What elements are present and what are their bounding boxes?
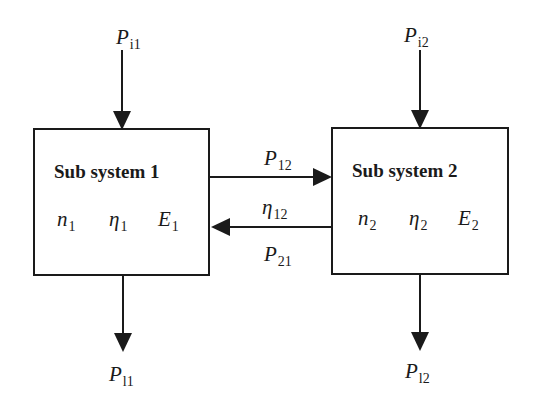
subsystem-2-title: Sub system 2 bbox=[352, 161, 458, 180]
loss-label-2: Pl2 bbox=[405, 361, 430, 386]
loss-label-1: Pl1 bbox=[109, 364, 134, 389]
subsystem-2-param-e: E2 bbox=[458, 208, 479, 233]
subsystem-2-param-n: n2 bbox=[358, 208, 377, 233]
loss-arrow-2 bbox=[411, 274, 429, 351]
subsystem-2-box bbox=[332, 128, 508, 274]
loss-arrow-1 bbox=[114, 275, 132, 352]
subsystem-1-param-e: E1 bbox=[158, 209, 179, 234]
input-arrow-1 bbox=[113, 50, 131, 130]
input-label-2: Pi2 bbox=[404, 25, 429, 50]
link-label-p12: P12 bbox=[264, 148, 292, 173]
link-label-p21: P21 bbox=[264, 244, 292, 269]
input-label-1: Pi1 bbox=[116, 27, 141, 52]
subsystem-2-param-eta: η2 bbox=[409, 208, 427, 233]
input-arrow-2 bbox=[411, 50, 429, 129]
subsystem-1-param-eta: η1 bbox=[109, 209, 127, 234]
subsystem-1-param-n: n1 bbox=[57, 209, 76, 234]
subsystem-1-box bbox=[34, 129, 209, 275]
link-label-eta12: η12 bbox=[262, 197, 287, 222]
subsystem-1-title: Sub system 1 bbox=[54, 162, 160, 181]
